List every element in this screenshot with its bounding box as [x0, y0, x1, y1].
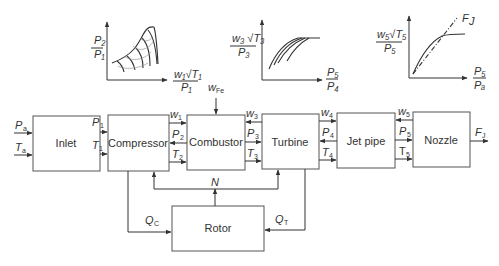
label-p2: P	[172, 128, 180, 140]
compressor-map-ylabel-den: P₁	[94, 48, 105, 60]
svg-text:3: 3	[254, 113, 258, 120]
svg-text:1: 1	[99, 145, 103, 152]
svg-text:a: a	[22, 147, 26, 154]
label-qc: Q	[145, 214, 154, 226]
turbine-curve-1	[269, 38, 320, 69]
svg-text:4: 4	[329, 112, 333, 119]
turbine-label: Turbine	[272, 136, 309, 148]
svg-text:3: 3	[254, 153, 258, 160]
engine-block-diagram: P₂ P₁ w₁√T₁ P₁ w₃ √T₃ P₃ P₅ P₄ F J w₅√T₅…	[0, 0, 499, 266]
svg-text:4: 4	[329, 152, 333, 159]
svg-text:1: 1	[100, 122, 104, 129]
svg-text:Fe: Fe	[216, 87, 224, 94]
compressor-map: P₂ P₁ w₁√T₁ P₁	[91, 22, 202, 93]
rotor-label: Rotor	[205, 222, 232, 234]
svg-text:2: 2	[180, 134, 184, 141]
nozzle-label: Nozzle	[424, 134, 458, 146]
compressor-map-xlabel-den: P₁	[181, 81, 192, 93]
nozzle-map: F J w₅√T₅ P₅ P₅ Pₐ	[376, 12, 486, 91]
svg-text:J: J	[468, 15, 475, 27]
nozzle-map-xlabel-den: Pₐ	[474, 79, 485, 91]
turbine-curve-3	[278, 38, 305, 63]
compressor-map-ylabel-num: P₂	[94, 34, 106, 46]
label-p4: P	[322, 126, 330, 138]
svg-text:4: 4	[330, 132, 334, 139]
jet-pipe-label: Jet pipe	[347, 135, 386, 147]
turbine-map-ylabel-num: w₃ √T₃	[232, 32, 265, 44]
label-p1: P	[92, 116, 100, 128]
label-p5: P	[399, 125, 407, 137]
label-pa: P	[15, 119, 23, 131]
svg-text:1: 1	[178, 114, 182, 121]
compressor-label: Compressor	[108, 137, 168, 149]
label-p3: P	[247, 127, 255, 139]
svg-text:2: 2	[179, 154, 183, 161]
turbine-map: w₃ √T₃ P₃ P₅ P₄	[230, 20, 339, 92]
label-qt: Q	[275, 213, 284, 225]
nozzle-flow-curve	[413, 34, 465, 74]
nozzle-thrust-curve	[413, 18, 457, 74]
compressor-surge-line	[112, 27, 154, 63]
svg-text:a: a	[23, 125, 27, 132]
svg-text:T: T	[284, 219, 289, 226]
turbine-map-ylabel-den: P₃	[238, 46, 250, 58]
svg-text:C: C	[154, 220, 159, 227]
nozzle-map-ylabel-den: P₅	[384, 42, 396, 54]
nozzle-map-ylabel-num: w₅√T₅	[377, 28, 407, 40]
turbine-map-xlabel-den: P₄	[327, 80, 339, 92]
svg-text:5: 5	[406, 111, 410, 118]
label-n: N	[211, 176, 219, 188]
inlet-label: Inlet	[56, 137, 77, 149]
svg-text:3: 3	[255, 133, 259, 140]
label-t5: T	[399, 145, 406, 157]
svg-text:J: J	[482, 132, 486, 139]
svg-text:5: 5	[406, 151, 410, 158]
turbine-map-xlabel-num: P₅	[327, 66, 339, 78]
svg-text:5: 5	[407, 131, 411, 138]
combustor-label: Combustor	[189, 136, 243, 148]
compressor-map-xlabel-num: w₁√T₁	[174, 68, 202, 80]
nozzle-map-xlabel-num: P₅	[474, 65, 486, 77]
